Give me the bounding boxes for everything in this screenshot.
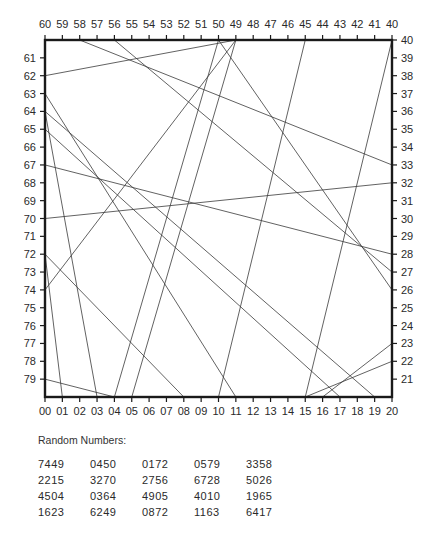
top-label: 58 bbox=[74, 18, 86, 30]
line-segment bbox=[114, 40, 218, 397]
table-cell: 0872 bbox=[142, 504, 194, 520]
line-segment bbox=[45, 111, 375, 397]
top-label: 48 bbox=[247, 18, 259, 30]
left-label: 64 bbox=[24, 105, 36, 117]
bottom-label: 03 bbox=[91, 405, 103, 417]
line-segment bbox=[45, 254, 184, 397]
table-cell: 0172 bbox=[142, 456, 194, 472]
top-label: 59 bbox=[56, 18, 68, 30]
bottom-label: 02 bbox=[74, 405, 86, 417]
frame-border bbox=[45, 40, 392, 397]
right-label: 27 bbox=[401, 266, 413, 278]
line-segment bbox=[45, 111, 97, 397]
bottom-label: 07 bbox=[160, 405, 172, 417]
table-row: 2215 3270 2756 6728 5026 bbox=[38, 472, 298, 488]
line-segment bbox=[114, 40, 392, 272]
bottom-label: 08 bbox=[178, 405, 190, 417]
line-segment bbox=[45, 40, 236, 76]
table-cell: 6249 bbox=[90, 504, 142, 520]
bottom-label: 18 bbox=[351, 405, 363, 417]
line-segment bbox=[45, 379, 114, 397]
right-label: 30 bbox=[401, 213, 413, 225]
random-numbers-title: Random Numbers: bbox=[38, 434, 126, 446]
line-segment bbox=[323, 343, 392, 397]
bottom-label: 04 bbox=[108, 405, 120, 417]
table-cell: 4905 bbox=[142, 488, 194, 504]
right-label: 37 bbox=[401, 88, 413, 100]
bottom-label: 05 bbox=[126, 405, 138, 417]
line-segment bbox=[45, 183, 392, 219]
bottom-label: 00 bbox=[39, 405, 51, 417]
table-cell: 4010 bbox=[194, 488, 246, 504]
square-frame bbox=[45, 40, 392, 397]
top-label: 55 bbox=[126, 18, 138, 30]
right-label: 26 bbox=[401, 284, 413, 296]
top-label: 45 bbox=[299, 18, 311, 30]
bottom-label: 10 bbox=[212, 405, 224, 417]
line-segment bbox=[219, 40, 306, 397]
line-segments bbox=[45, 40, 392, 397]
top-label: 56 bbox=[108, 18, 120, 30]
bottom-label: 20 bbox=[386, 405, 398, 417]
line-segment bbox=[132, 40, 236, 397]
table-row: 4504 0364 4905 4010 1965 bbox=[38, 488, 298, 504]
left-label: 63 bbox=[24, 88, 36, 100]
left-label: 76 bbox=[24, 320, 36, 332]
right-label: 28 bbox=[401, 248, 413, 260]
table-cell: 2215 bbox=[38, 472, 90, 488]
right-label: 33 bbox=[401, 159, 413, 171]
top-label: 57 bbox=[91, 18, 103, 30]
top-label: 53 bbox=[160, 18, 172, 30]
bottom-label: 17 bbox=[334, 405, 346, 417]
table-row: 1623 6249 0872 1163 6417 bbox=[38, 504, 298, 520]
bottom-label: 13 bbox=[264, 405, 276, 417]
table-cell: 2756 bbox=[142, 472, 194, 488]
top-label: 50 bbox=[212, 18, 224, 30]
left-label: 70 bbox=[24, 213, 36, 225]
left-label: 66 bbox=[24, 141, 36, 153]
bottom-label: 06 bbox=[143, 405, 155, 417]
line-segment bbox=[219, 40, 393, 290]
right-label: 22 bbox=[401, 355, 413, 367]
table-cell: 5026 bbox=[246, 472, 298, 488]
left-label: 74 bbox=[24, 284, 36, 296]
top-label: 43 bbox=[334, 18, 346, 30]
random-lines-diagram: 6059585756555453525150494847464544434241… bbox=[0, 0, 435, 420]
left-label: 78 bbox=[24, 355, 36, 367]
top-label: 40 bbox=[386, 18, 398, 30]
bottom-label: 19 bbox=[369, 405, 381, 417]
line-segment bbox=[45, 129, 340, 397]
left-label: 73 bbox=[24, 266, 36, 278]
right-label: 29 bbox=[401, 230, 413, 242]
bottom-label: 09 bbox=[195, 405, 207, 417]
top-label: 52 bbox=[178, 18, 190, 30]
table-cell: 6728 bbox=[194, 472, 246, 488]
left-label: 67 bbox=[24, 159, 36, 171]
table-cell: 1965 bbox=[246, 488, 298, 504]
right-label: 38 bbox=[401, 70, 413, 82]
right-label: 35 bbox=[401, 123, 413, 135]
bottom-label: 12 bbox=[247, 405, 259, 417]
top-label: 47 bbox=[264, 18, 276, 30]
left-label: 62 bbox=[24, 70, 36, 82]
table-cell: 3358 bbox=[246, 456, 298, 472]
left-label: 61 bbox=[24, 52, 36, 64]
bottom-label: 11 bbox=[230, 405, 241, 417]
top-label: 42 bbox=[351, 18, 363, 30]
left-label: 75 bbox=[24, 302, 36, 314]
table-cell: 4504 bbox=[38, 488, 90, 504]
top-label: 44 bbox=[316, 18, 328, 30]
line-segment bbox=[45, 165, 392, 254]
table-cell: 6417 bbox=[246, 504, 298, 520]
bottom-label: 15 bbox=[299, 405, 311, 417]
right-label: 40 bbox=[401, 34, 413, 46]
line-segment bbox=[305, 361, 392, 397]
line-segment bbox=[305, 40, 392, 397]
table-cell: 0364 bbox=[90, 488, 142, 504]
left-label: 68 bbox=[24, 177, 36, 189]
bottom-label: 14 bbox=[282, 405, 294, 417]
left-label: 72 bbox=[24, 248, 36, 260]
top-label: 60 bbox=[39, 18, 51, 30]
table-cell: 3270 bbox=[90, 472, 142, 488]
random-numbers-table: 7449 0450 0172 0579 3358 2215 3270 2756 … bbox=[38, 456, 298, 520]
